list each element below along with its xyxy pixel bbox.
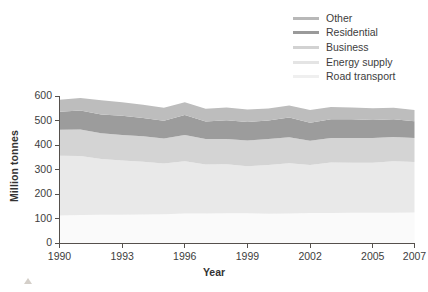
legend-item-business: Business <box>293 40 425 55</box>
y-tick-label-400: 400 <box>8 138 52 150</box>
legend-item-other: Other <box>293 11 425 26</box>
legend-swatch-residential <box>293 31 319 34</box>
legend-item-road-transport: Road transport <box>293 69 425 84</box>
legend-label-energy-supply: Energy supply <box>326 57 393 68</box>
legend-swatch-road-transport <box>293 75 319 78</box>
legend-label-residential: Residential <box>326 27 378 38</box>
legend-swatch-other <box>293 17 319 20</box>
x-tick-label-1993: 1993 <box>98 250 146 262</box>
legend-swatch-business <box>293 46 319 49</box>
chart-figure: Other Residential Business Energy supply… <box>0 0 428 292</box>
y-tick-label-600: 600 <box>8 89 52 101</box>
legend-label-business: Business <box>326 42 369 53</box>
page-marker-triangle-icon <box>24 278 32 284</box>
x-axis-title: Year <box>0 266 428 278</box>
y-tick-label-0: 0 <box>8 236 52 248</box>
y-tick-label-200: 200 <box>8 187 52 199</box>
legend-swatch-energy-supply <box>293 61 319 64</box>
legend-item-residential: Residential <box>293 26 425 41</box>
y-tick-label-300: 300 <box>8 163 52 175</box>
legend-label-road-transport: Road transport <box>326 71 395 82</box>
legend-item-energy-supply: Energy supply <box>293 55 425 70</box>
chart-legend: Other Residential Business Energy supply… <box>293 11 425 84</box>
y-tick-label-500: 500 <box>8 114 52 126</box>
stacked-areas <box>60 98 415 243</box>
y-tick-label-100: 100 <box>8 212 52 224</box>
x-tick-label-2002: 2002 <box>286 250 334 262</box>
x-tick-label-1999: 1999 <box>223 250 271 262</box>
x-tick-label-2007: 2007 <box>391 250 428 262</box>
area-band-road-transport <box>60 213 415 243</box>
legend-label-other: Other <box>326 13 352 24</box>
x-tick-label-1990: 1990 <box>36 250 84 262</box>
x-tick-label-1996: 1996 <box>161 250 209 262</box>
